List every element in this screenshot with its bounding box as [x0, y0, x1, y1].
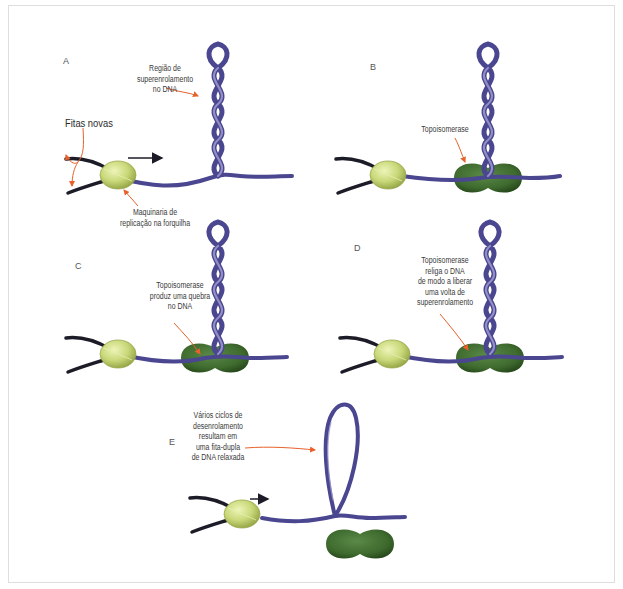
label-topoisomerase-religate: Topoisomerase religa o DNA de modo a lib…: [408, 255, 482, 308]
label-line: de modo a liberar: [408, 276, 482, 287]
label-line: Região de: [128, 63, 202, 74]
label-line: de DNA relaxada: [185, 452, 251, 463]
label-line: no DNA: [128, 84, 202, 95]
label-line: produz uma quebra: [143, 291, 217, 302]
label-line: replicação na forquilha: [110, 218, 200, 229]
label-line: Topoisomerase: [408, 255, 482, 266]
panel-letter-a: A: [63, 56, 69, 66]
label-line: resultam em: [185, 431, 251, 442]
label-relaxed-dna: Vários ciclos de desenrolamento resultam…: [185, 410, 251, 463]
label-topoisomerase-break: Topoisomerase produz uma quebra no DNA: [143, 280, 217, 312]
panel-letter-d: D: [354, 243, 361, 253]
panel-letter-b: B: [370, 62, 376, 72]
label-line: uma fita-dupla: [185, 442, 251, 453]
panel-letter-e: E: [169, 437, 175, 447]
label-topoisomerase-b: Topoisomerase: [416, 124, 473, 135]
label-line: superenrolamento: [408, 297, 482, 308]
label-line: superenrolamento: [128, 74, 202, 85]
dna-replication-diagram: [0, 0, 623, 589]
label-replication-machinery: Maquinaria de replicação na forquilha: [110, 207, 200, 228]
label-new-strands: Fitas novas: [65, 117, 113, 130]
label-line: Maquinaria de: [110, 207, 200, 218]
panel-letter-c: C: [75, 261, 82, 271]
label-line: desenrolamento: [185, 421, 251, 432]
label-line: Topoisomerase: [143, 280, 217, 291]
label-line: no DNA: [143, 301, 217, 312]
label-line: religa o DNA: [408, 266, 482, 277]
label-supercoil-region: Região de superenrolamento no DNA: [128, 63, 202, 95]
label-line: uma volta de: [408, 287, 482, 298]
label-line: Vários ciclos de: [185, 410, 251, 421]
